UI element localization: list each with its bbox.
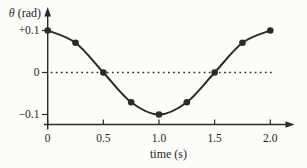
data-point-marker	[239, 40, 246, 47]
y-tick-label: 0	[34, 66, 40, 78]
x-tick-label: 0.5	[96, 132, 111, 144]
x-tick-label: 1.0	[152, 132, 167, 144]
x-tick-label: 0	[45, 132, 51, 144]
data-point-marker	[211, 69, 218, 76]
y-axis-arrowhead	[44, 7, 51, 17]
data-point-marker	[128, 99, 135, 106]
data-point-marker	[100, 69, 107, 76]
data-point-marker	[44, 27, 51, 34]
x-axis-arrowhead	[286, 121, 295, 128]
x-axis-label: time (s)	[150, 147, 187, 161]
y-axis-unit: (rad)	[15, 6, 41, 20]
data-point-marker	[156, 111, 163, 118]
data-point-marker	[72, 40, 79, 47]
y-tick-label: −0.1	[19, 108, 40, 120]
y-axis-label: θ (rad)	[9, 6, 41, 20]
figure: 00.51.01.52.0+0.10−0.1 θ (rad) time (s)	[0, 0, 307, 168]
x-tick-label: 1.5	[207, 132, 222, 144]
theta-vs-time-plot: 00.51.01.52.0+0.10−0.1 θ (rad) time (s)	[0, 0, 307, 168]
plot-generated-layer: 00.51.01.52.0+0.10−0.1	[19, 7, 295, 144]
x-tick-label: 2.0	[263, 132, 278, 144]
y-tick-label: +0.1	[19, 24, 40, 36]
data-point-marker	[267, 27, 274, 34]
data-point-marker	[184, 99, 191, 106]
